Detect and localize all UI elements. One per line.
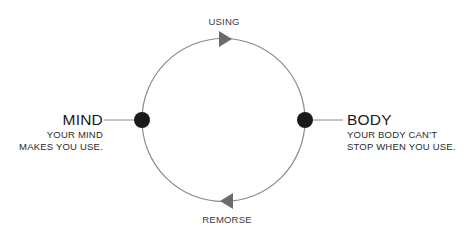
arrow-right-icon — [219, 31, 232, 47]
mind-title: MIND — [63, 111, 103, 129]
cycle-circle — [142, 39, 305, 202]
stage-label-using: USING — [200, 16, 248, 27]
body-description-line-2: STOP WHEN YOU USE. — [347, 141, 456, 153]
body-description-line-1: YOUR BODY CAN'T — [347, 129, 456, 141]
body-node: BODY — [347, 111, 392, 129]
stage-label-remorse: REMORSE — [194, 214, 260, 225]
mind-node-dot — [134, 112, 150, 128]
body-title: BODY — [347, 111, 392, 129]
mind-description-line-2: MAKES YOU USE. — [19, 141, 103, 153]
body-description: YOUR BODY CAN'T STOP WHEN YOU USE. — [347, 129, 456, 153]
arrow-left-icon — [220, 193, 233, 209]
mind-description: YOUR MIND MAKES YOU USE. — [19, 129, 103, 153]
mind-node: MIND — [63, 111, 103, 129]
body-node-dot — [297, 112, 313, 128]
mind-description-line-1: YOUR MIND — [19, 129, 103, 141]
